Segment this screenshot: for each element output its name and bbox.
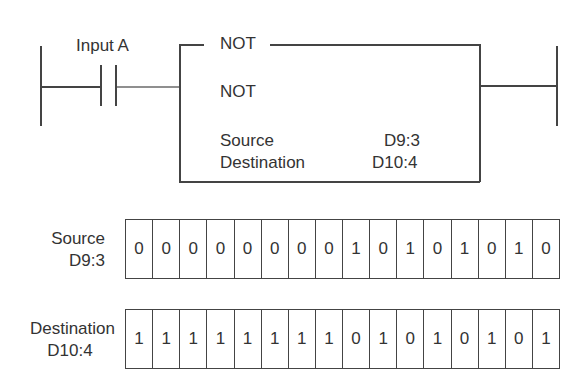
bit-cell: 0: [153, 220, 180, 278]
bit-cell: 0: [235, 220, 262, 278]
bit-cell: 0: [289, 220, 316, 278]
bit-cell: 1: [207, 310, 234, 368]
bit-cell: 0: [506, 310, 533, 368]
bit-cell: 0: [370, 220, 397, 278]
source-register-label: Source D9:3: [20, 228, 105, 272]
bit-cell: 1: [316, 310, 343, 368]
block-bottom-edge: [179, 181, 480, 183]
bit-cell: 1: [126, 310, 153, 368]
bit-cell: 1: [479, 310, 506, 368]
bit-cell: 1: [289, 310, 316, 368]
block-instruction: NOT: [220, 82, 256, 102]
bit-cell: 0: [424, 220, 451, 278]
bit-cell: 1: [180, 310, 207, 368]
block-destination-label: Destination: [220, 153, 305, 173]
block-source-value: D9:3: [384, 131, 420, 151]
source-bit-grid: 0 0 0 0 0 0 0 0 1 0 1 0 1 0 1 0: [125, 219, 560, 279]
bit-cell: 1: [235, 310, 262, 368]
bit-cell: 0: [343, 310, 370, 368]
destination-register-label: Destination D10:4: [5, 318, 115, 362]
bit-cell: 0: [126, 220, 153, 278]
bit-cell: 1: [343, 220, 370, 278]
bit-cell: 0: [397, 310, 424, 368]
block-left-edge: [179, 44, 181, 182]
destination-register-name: Destination: [5, 318, 115, 340]
rung-line-left: [40, 86, 100, 88]
contact-left-bar: [100, 65, 102, 106]
bit-cell: 0: [262, 220, 289, 278]
block-source-label: Source: [220, 131, 274, 151]
block-destination-value: D10:4: [372, 153, 417, 173]
bit-cell: 1: [370, 310, 397, 368]
block-top-edge-right: [270, 44, 480, 46]
block-top-edge-left: [179, 44, 204, 46]
bit-cell: 0: [533, 220, 559, 278]
bit-cell: 1: [397, 220, 424, 278]
bit-cell: 1: [153, 310, 180, 368]
bit-cell: 1: [533, 310, 559, 368]
block-header: NOT: [220, 34, 256, 54]
destination-bit-grid: 1 1 1 1 1 1 1 1 0 1 0 1 0 1 0 1: [125, 309, 560, 369]
bit-cell: 0: [316, 220, 343, 278]
bit-cell: 0: [180, 220, 207, 278]
source-register-address: D9:3: [20, 250, 105, 272]
rung-line-right: [480, 85, 557, 87]
bit-cell: 0: [452, 310, 479, 368]
rung-line-middle: [115, 86, 179, 88]
destination-register-address: D10:4: [5, 340, 115, 362]
bit-cell: 1: [424, 310, 451, 368]
right-power-rail: [556, 46, 558, 126]
bit-cell: 0: [207, 220, 234, 278]
bit-cell: 1: [262, 310, 289, 368]
source-register-name: Source: [20, 228, 105, 250]
bit-cell: 0: [479, 220, 506, 278]
block-right-edge: [479, 44, 481, 182]
bit-cell: 1: [506, 220, 533, 278]
bit-cell: 1: [452, 220, 479, 278]
contact-label: Input A: [76, 36, 129, 56]
